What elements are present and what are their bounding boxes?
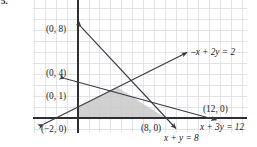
- point-label-neg2-0: (−2, 0): [41, 125, 66, 134]
- point-label-0-8: (0, 8): [46, 25, 66, 34]
- equation-label-neg-x-plus-2y: –x + 2y = 2: [191, 48, 235, 57]
- point-label-8-0: (8, 0): [141, 124, 161, 133]
- point-label-0-4: (0, 4): [46, 69, 66, 78]
- point-label-0-1: (0, 1): [46, 92, 66, 101]
- equation-label-x-plus-y: x + y = 8: [164, 134, 199, 143]
- equation-label-x-plus-3y: x + 3y = 12: [200, 123, 244, 132]
- point-label-12-0: (12, 0): [203, 105, 228, 114]
- problem-number: 5.: [1, 0, 8, 6]
